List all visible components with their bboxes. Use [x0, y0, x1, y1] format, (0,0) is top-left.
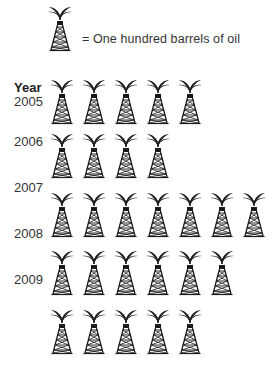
oil-derrick-icon [145, 250, 171, 296]
pictograph-row-2006 [0, 133, 280, 181]
oil-derrick-icon [145, 309, 171, 355]
oil-derrick-icon [49, 133, 75, 179]
oil-derrick-icon [113, 192, 139, 238]
pictograph-row-2009 [0, 309, 280, 357]
oil-derrick-icon [145, 133, 171, 179]
oil-derrick-icon [145, 79, 171, 125]
oil-derrick-icon [241, 192, 267, 238]
oil-derrick-icon [145, 192, 171, 238]
oil-derrick-icon [113, 79, 139, 125]
pictograph-row-2007 [0, 192, 280, 240]
oil-derrick-icon [209, 192, 235, 238]
oil-derrick-icon [81, 192, 107, 238]
oil-derrick-icon [177, 79, 203, 125]
oil-derrick-icon [49, 250, 75, 296]
oil-derrick-icon [81, 79, 107, 125]
oil-derrick-icon [49, 79, 75, 125]
oil-derrick-icon [177, 192, 203, 238]
oil-derrick-icon [81, 309, 107, 355]
oil-derrick-icon [47, 6, 73, 52]
oil-derrick-icon [81, 250, 107, 296]
legend-label: = One hundred barrels of oil [82, 32, 240, 46]
oil-derrick-icon [81, 133, 107, 179]
oil-derrick-icon [113, 309, 139, 355]
oil-derrick-icon [49, 192, 75, 238]
oil-derrick-icon [113, 133, 139, 179]
pictograph-row-2005 [0, 79, 280, 127]
oil-derrick-icon [113, 250, 139, 296]
oil-derrick-icon [177, 309, 203, 355]
oil-derrick-icon [177, 250, 203, 296]
oil-derrick-icon [49, 309, 75, 355]
oil-derrick-icon [209, 250, 235, 296]
pictograph-row-2008 [0, 250, 280, 298]
